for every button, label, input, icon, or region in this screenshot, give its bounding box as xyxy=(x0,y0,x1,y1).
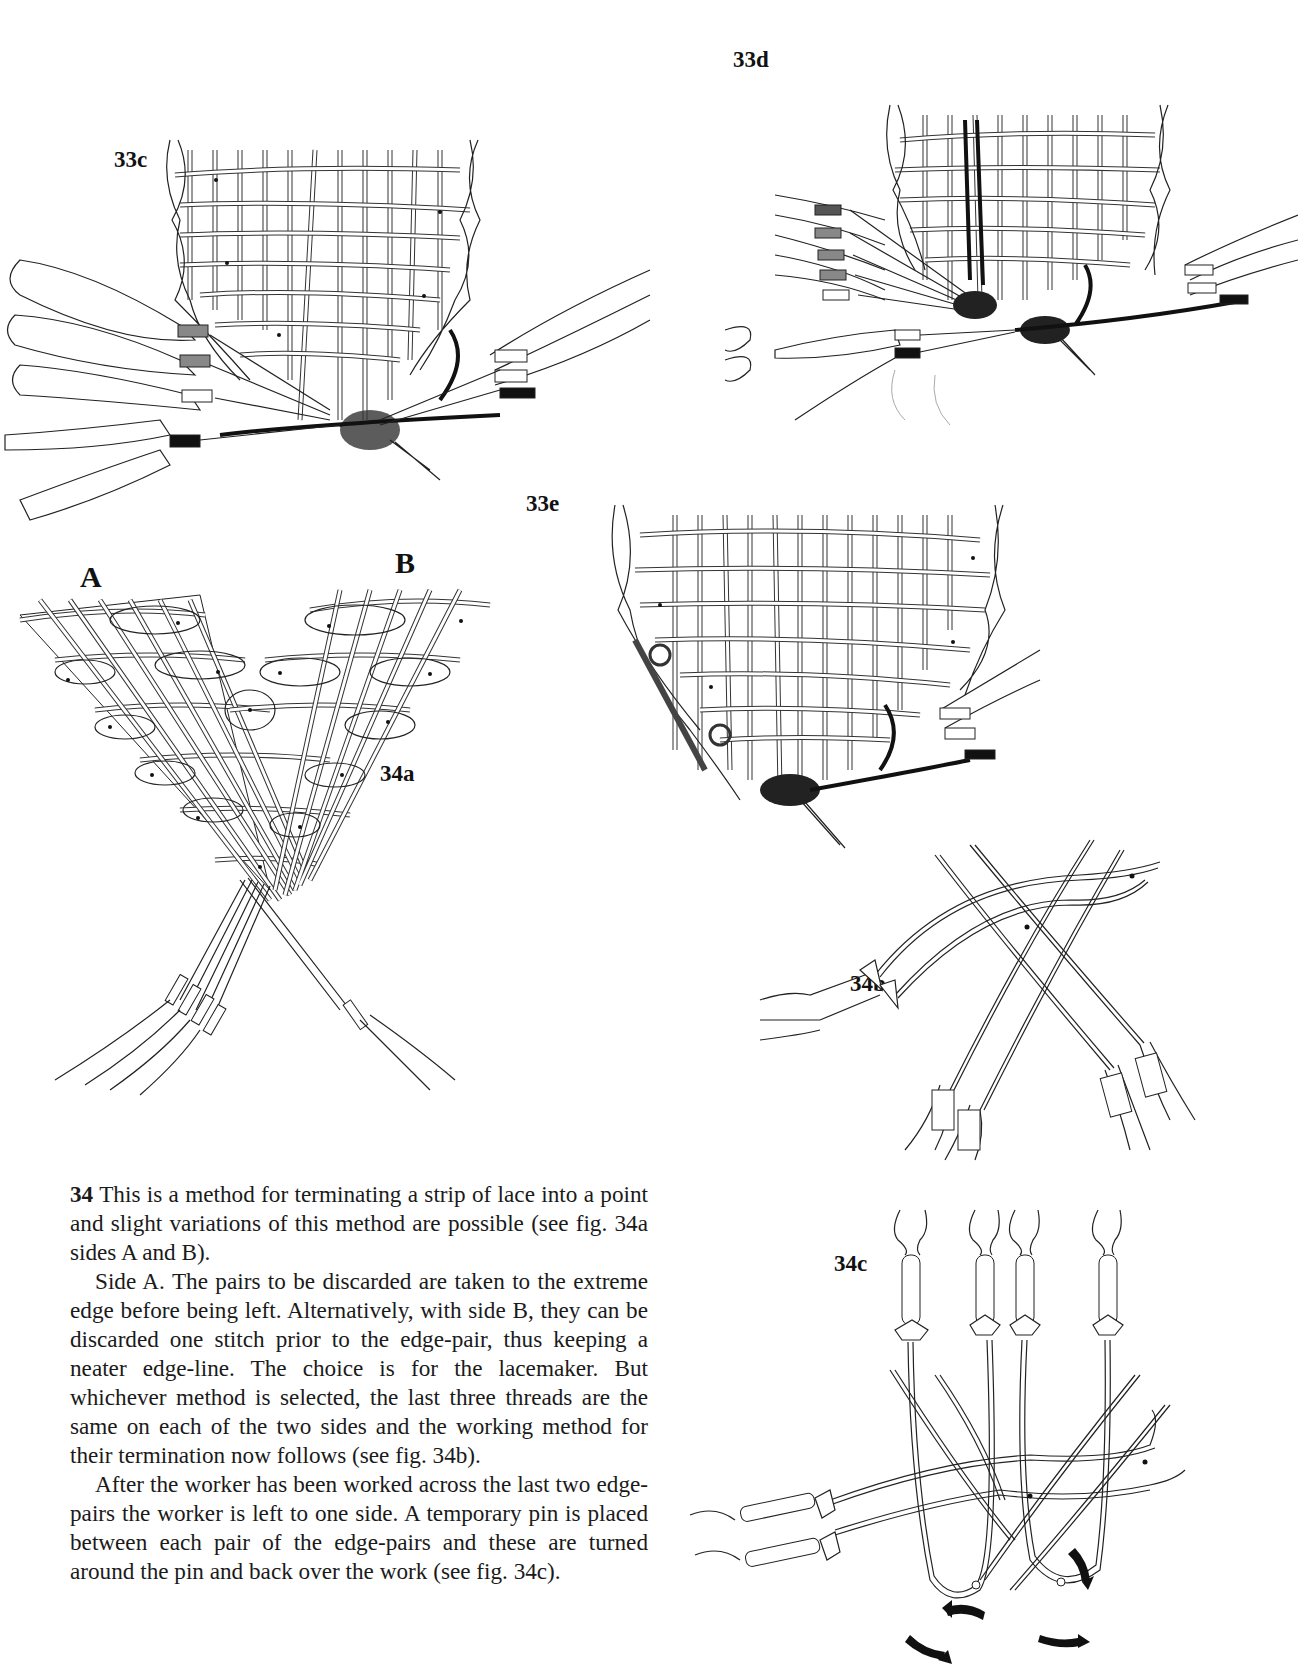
lace-diagram-34c xyxy=(680,1180,1200,1671)
paragraph-side-a: Side A. The pairs to be discarded are ta… xyxy=(70,1267,648,1470)
figure-33c: 33c xyxy=(0,120,660,520)
paragraph-body: This is a method for terminating a strip… xyxy=(70,1181,648,1265)
figure-34b: 34b xyxy=(700,820,1200,1170)
body-text: 34This is a method for terminating a str… xyxy=(70,1180,648,1586)
paragraph-worker: After the worker has been worked across … xyxy=(70,1470,648,1586)
curved-arrow-icon xyxy=(905,1548,1094,1664)
figure-number: 34 xyxy=(70,1181,93,1207)
figure-33d: 33d xyxy=(715,40,1298,440)
figure-33e: 33e xyxy=(540,470,1040,850)
paragraph-34-intro: 34This is a method for terminating a str… xyxy=(70,1180,648,1267)
lace-diagram-33d xyxy=(715,40,1298,440)
lace-diagram-33c xyxy=(0,120,660,520)
lace-diagram-33e xyxy=(540,470,1040,850)
figure-34c: 34c xyxy=(680,1180,1200,1671)
figure-34a: A B 34a xyxy=(0,560,560,1080)
lace-diagram-34b xyxy=(700,820,1200,1170)
lace-diagram-34a xyxy=(0,560,560,1080)
